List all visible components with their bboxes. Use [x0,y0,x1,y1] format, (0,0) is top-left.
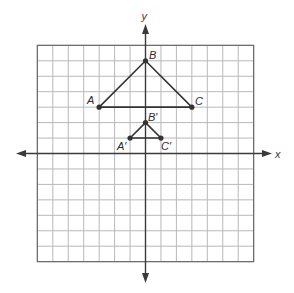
vertex-point-icon [127,135,132,140]
point-label-b-prime: B′ [148,111,158,123]
y-axis: y [141,10,150,283]
arrow-left-icon [16,150,26,157]
vertex-point-icon [97,105,102,110]
point-label-c-prime: C′ [161,140,172,152]
arrow-right-icon [262,150,272,157]
point-label-c: C [195,95,203,107]
arrow-down-icon [142,273,149,283]
x-axis: x [16,148,281,160]
vertex-point-icon [143,58,148,63]
point-label-a-prime: A′ [116,140,127,152]
x-axis-label: x [274,148,281,160]
coordinate-plane: x y A B C A′ B′ C′ [0,0,294,293]
point-label-b: B [149,49,156,61]
point-label-a: A [86,94,94,106]
arrow-up-icon [142,24,149,34]
y-axis-label: y [141,10,149,22]
vertex-point-icon [189,105,194,110]
